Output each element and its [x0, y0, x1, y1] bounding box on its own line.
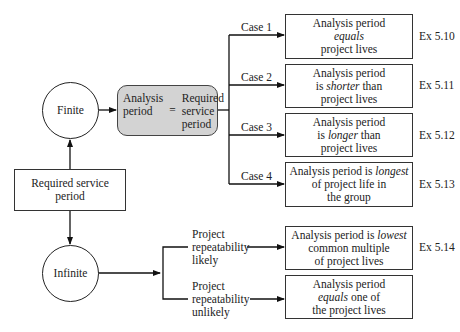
- finite-label: Finite: [57, 104, 84, 117]
- example-ref-5-10: Ex 5.10: [419, 30, 455, 43]
- unlikely-label-line1: Project: [192, 280, 249, 293]
- case-2-line2-post: than: [360, 80, 383, 92]
- example-ref-5-12: Ex 5.12: [419, 129, 455, 142]
- example-ref-5-13: Ex 5.13: [419, 178, 455, 191]
- case-3-emphasis: longer: [328, 129, 358, 141]
- case-2-line2-pre: is: [316, 80, 327, 92]
- case-3-label: Case 3: [241, 121, 272, 134]
- case-2-box: Analysis period is shorter than project …: [285, 64, 413, 108]
- case-2-line1: Analysis period: [313, 67, 386, 80]
- unlikely-label-line2: repeatability: [192, 293, 249, 306]
- case-2-emphasis: shorter: [326, 80, 359, 92]
- equals-one-project-box: Analysis period equals one of the projec…: [285, 275, 413, 319]
- equals-one-line1: Analysis period: [313, 278, 386, 291]
- unlikely-label-line3: unlikely: [192, 306, 249, 319]
- infinite-node: Infinite: [42, 245, 99, 302]
- required-service-line1: Required service: [31, 177, 109, 190]
- case-1-label: Case 1: [241, 21, 272, 34]
- lowest-common-multiple-box: Analysis period is lowest common multipl…: [285, 226, 413, 270]
- case-4-line3: the group: [327, 191, 371, 204]
- case-4-box: Analysis period is longest of project li…: [285, 162, 413, 207]
- repeatability-likely-label: Project repeatability likely: [192, 228, 249, 267]
- equation-operator: =: [169, 104, 176, 117]
- equation-right-line1: Required: [182, 92, 224, 105]
- required-service-line2: period: [55, 190, 84, 203]
- case-3-line2-post: than: [358, 129, 381, 141]
- case-3-box: Analysis period is longer than project l…: [285, 113, 413, 157]
- example-ref-5-14: Ex 5.14: [419, 241, 455, 254]
- equals-one-emphasis: equals: [318, 291, 348, 303]
- case-1-line3: project lives: [321, 43, 378, 56]
- lcm-emphasis: lowest: [377, 229, 406, 241]
- example-ref-5-11: Ex 5.11: [419, 79, 454, 92]
- equation-left-line1: Analysis: [123, 92, 163, 105]
- case-2-line3: project lives: [321, 93, 378, 106]
- equation-right-line3: period: [182, 118, 224, 131]
- finite-node: Finite: [42, 82, 99, 139]
- equation-right-line2: service: [182, 105, 224, 118]
- lcm-line2: common multiple: [308, 242, 389, 255]
- lcm-line3: of project lives: [315, 255, 384, 268]
- equation-right: Required service period: [182, 92, 224, 131]
- case-4-line1-pre: Analysis period is: [289, 165, 375, 177]
- lcm-line1-pre: Analysis period is: [291, 229, 377, 241]
- case-1-line1: Analysis period: [313, 17, 386, 30]
- case-4-label: Case 4: [241, 170, 272, 183]
- likely-label-line2: repeatability: [192, 241, 249, 254]
- case-4-emphasis: longest: [375, 165, 408, 177]
- case-3-line3: project lives: [321, 142, 378, 155]
- equals-one-line2-post: one of: [348, 291, 380, 303]
- case-3-line2-pre: is: [317, 129, 328, 141]
- case-4-line2: of project life in: [312, 178, 386, 191]
- equation-left-line2: period: [123, 105, 163, 118]
- repeatability-unlikely-label: Project repeatability unlikely: [192, 280, 249, 319]
- analysis-equals-required-node: Analysis period = Required service perio…: [117, 85, 218, 136]
- case-1-emphasis: equals: [334, 30, 364, 42]
- case-3-line1: Analysis period: [313, 116, 386, 129]
- likely-label-line1: Project: [192, 228, 249, 241]
- equals-one-line3: the project lives: [312, 304, 385, 317]
- likely-label-line3: likely: [192, 254, 249, 267]
- required-service-period-node: Required service period: [14, 169, 126, 211]
- infinite-label: Infinite: [54, 267, 88, 280]
- case-2-label: Case 2: [241, 71, 272, 84]
- case-1-box: Analysis period equals project lives: [285, 14, 413, 59]
- equation-left: Analysis period: [123, 92, 163, 118]
